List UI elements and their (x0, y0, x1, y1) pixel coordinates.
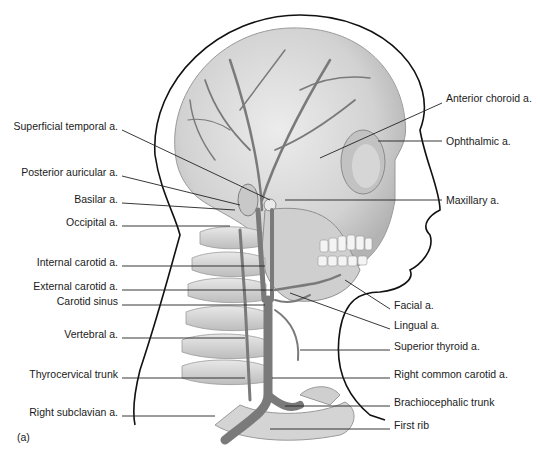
label-lingual-artery: Lingual a. (394, 319, 440, 331)
label-vertebral-artery: Vertebral a. (64, 328, 118, 340)
label-first-rib: First rib (394, 419, 429, 431)
panel-label: (a) (17, 431, 30, 443)
cervical-vertebrae (182, 227, 266, 385)
label-right-common-carotid-artery: Right common carotid a. (394, 368, 508, 380)
label-right-subclavian-artery: Right subclavian a. (29, 406, 118, 418)
label-posterior-auricular-artery: Posterior auricular a. (21, 166, 118, 178)
label-ophthalmic-artery: Ophthalmic a. (446, 135, 511, 147)
label-external-carotid-artery: External carotid a. (33, 280, 118, 292)
head-neck-arteries-illustration (0, 0, 540, 458)
label-thyrocervical-trunk: Thyrocervical trunk (29, 368, 118, 380)
label-facial-artery: Facial a. (394, 299, 434, 311)
label-occipital-artery: Occipital a. (66, 216, 118, 228)
label-anterior-choroid-artery: Anterior choroid a. (446, 92, 532, 104)
label-brachiocephalic-trunk: Brachiocephalic trunk (394, 396, 494, 408)
label-superior-thyroid-artery: Superior thyroid a. (394, 340, 480, 352)
label-basilar-artery: Basilar a. (74, 193, 118, 205)
label-carotid-sinus: Carotid sinus (57, 295, 118, 307)
label-internal-carotid-artery: Internal carotid a. (37, 256, 118, 268)
label-superficial-temporal-artery: Superficial temporal a. (14, 120, 118, 132)
label-maxillary-artery: Maxillary a. (446, 194, 499, 206)
